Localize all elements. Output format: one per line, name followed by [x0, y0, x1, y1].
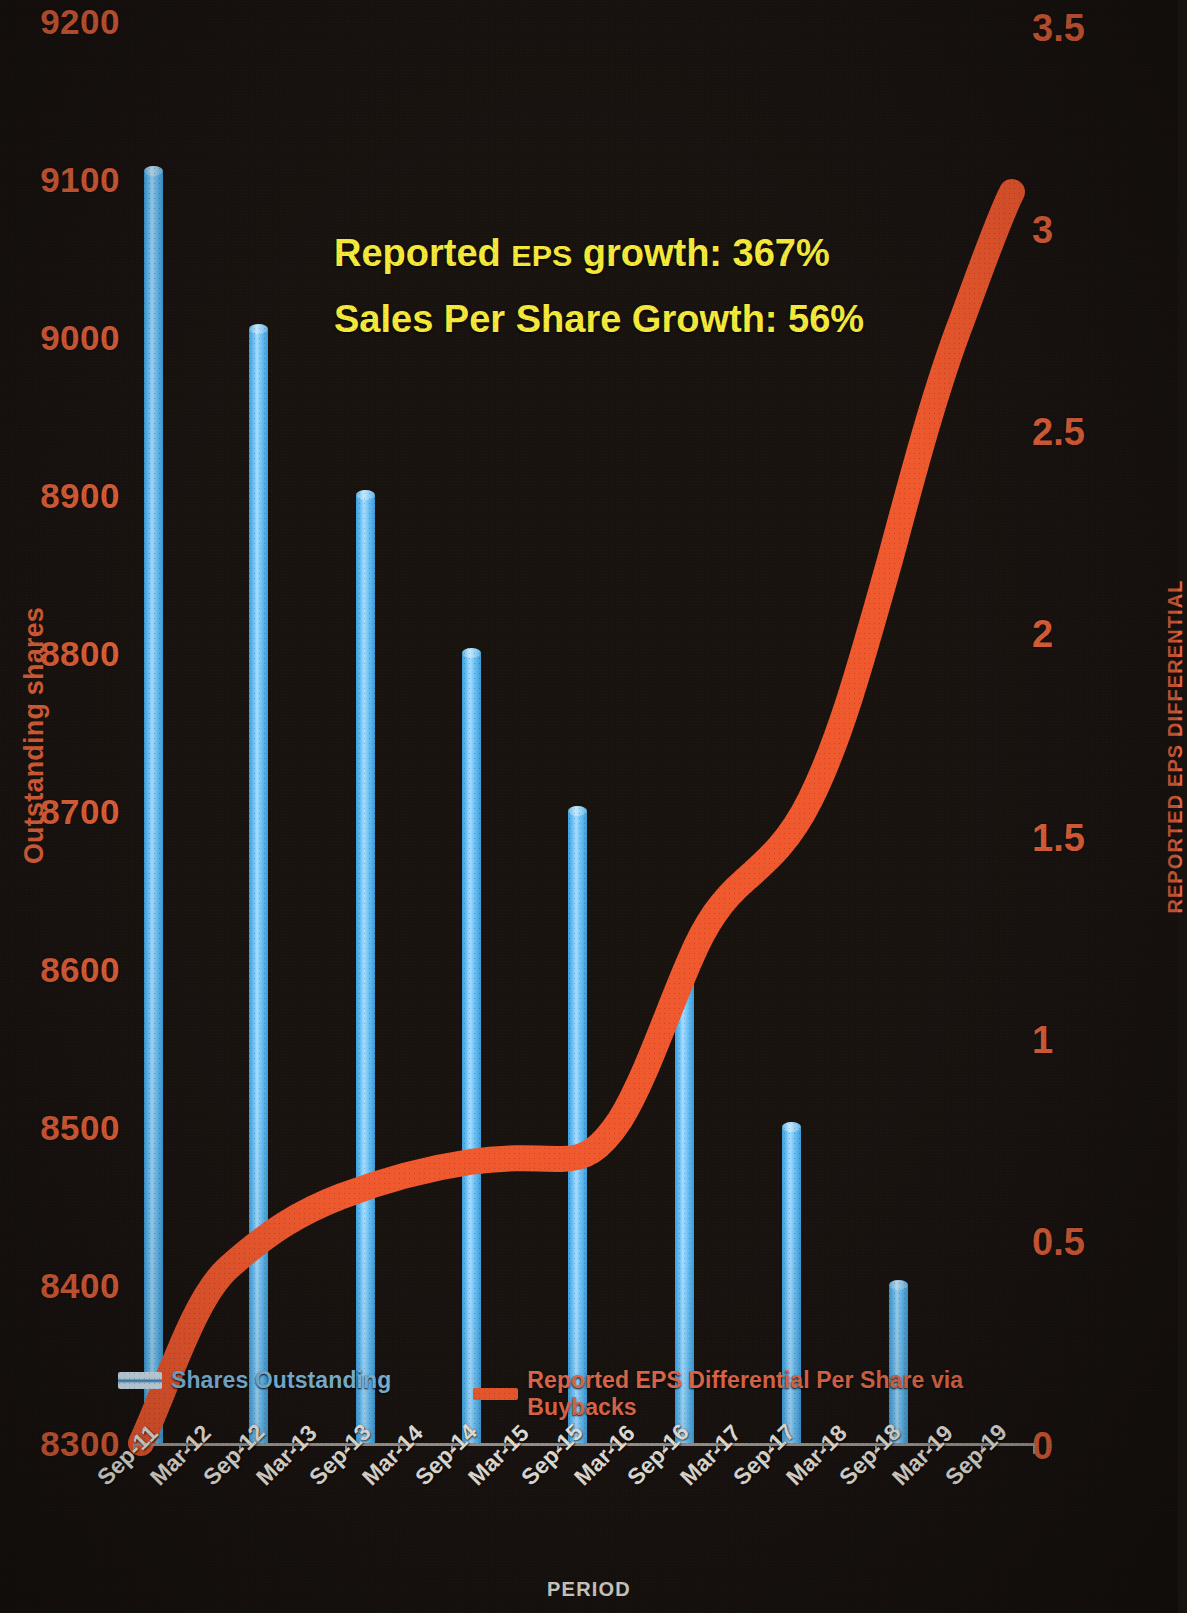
annotation-eps-growth-abbrev: EPS: [511, 238, 572, 272]
annotation-sales-per-share-growth: Sales Per Share Growth: 56%: [334, 298, 864, 341]
x-axis-title: PERIOD: [0, 1578, 1178, 1601]
annotation-eps-growth: Reported EPS growth: 367%: [334, 232, 830, 275]
annotation-eps-growth-suffix: growth: 367%: [572, 232, 830, 274]
legend-line-swatch-icon: [473, 1388, 518, 1400]
legend-bar-swatch-icon: [118, 1372, 162, 1389]
chart-legend: Shares Outstanding Reported EPS Differen…: [118, 1363, 1048, 1403]
legend-label-shares-outstanding: Shares Outstanding: [171, 1367, 391, 1394]
legend-entry-shares-outstanding[interactable]: Shares Outstanding: [118, 1367, 391, 1394]
annotation-eps-growth-prefix: Reported: [334, 232, 511, 274]
legend-label-eps-differential: Reported EPS Differential Per Share via …: [527, 1367, 1048, 1421]
legend-entry-eps-differential[interactable]: Reported EPS Differential Per Share via …: [473, 1367, 1048, 1421]
x-tick-mark: [1033, 1443, 1035, 1454]
